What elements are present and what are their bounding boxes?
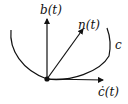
- base-point: [44, 76, 49, 81]
- frenet-frame-diagram: b(t) n(t) c ċ(t): [0, 0, 128, 104]
- curve-label: c: [115, 39, 122, 51]
- tangent-label: ċ(t): [98, 86, 119, 98]
- normal-label: n(t): [78, 19, 100, 31]
- binormal-label: b(t): [40, 4, 62, 16]
- normal-arrow: [47, 29, 83, 79]
- curve-c: [11, 28, 110, 80]
